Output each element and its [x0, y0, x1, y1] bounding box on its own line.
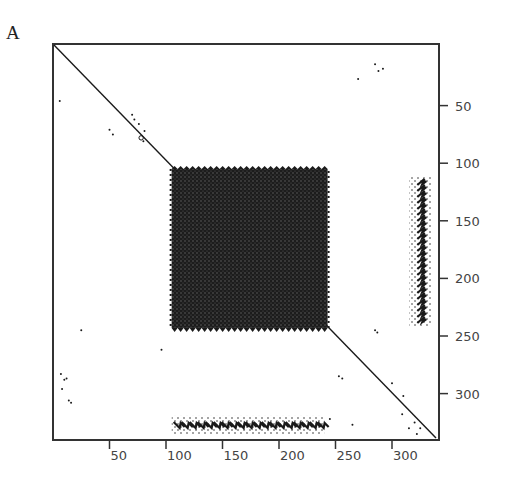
- data-point: [419, 427, 421, 429]
- data-point: [70, 402, 72, 404]
- x-tick-label: 150: [224, 448, 249, 463]
- data-point: [374, 329, 376, 331]
- data-point: [66, 378, 68, 380]
- data-point: [142, 140, 144, 142]
- diagonal-marker: [139, 136, 143, 140]
- y-tick-label: 250: [455, 329, 480, 344]
- data-point: [61, 388, 63, 390]
- data-point: [68, 400, 70, 402]
- data-point: [338, 375, 340, 377]
- data-point: [109, 129, 111, 131]
- data-point: [408, 427, 410, 429]
- dense-block: [170, 166, 330, 332]
- y-tick-label: 200: [455, 271, 480, 286]
- data-point: [402, 395, 404, 397]
- data-point: [144, 130, 146, 132]
- side-band-bottom: [172, 416, 329, 435]
- dense-block-fill: [172, 169, 328, 328]
- y-tick-label: 100: [455, 156, 480, 171]
- dot-plot: 50100150200250300 50100150200250300: [0, 0, 517, 490]
- y-axis-right: 50100150200250300: [439, 99, 480, 402]
- y-tick-label: 50: [455, 99, 472, 114]
- data-point: [131, 114, 133, 116]
- data-point: [414, 421, 416, 423]
- data-point: [60, 373, 62, 375]
- data-point: [401, 413, 403, 415]
- data-point: [376, 332, 378, 334]
- data-point: [59, 100, 61, 102]
- data-point: [374, 63, 376, 65]
- data-point: [112, 133, 114, 135]
- data-point: [341, 378, 343, 380]
- data-point: [160, 349, 162, 351]
- x-tick-label: 250: [337, 448, 362, 463]
- x-tick-label: 100: [167, 448, 192, 463]
- data-point: [63, 379, 65, 381]
- x-tick-label: 300: [393, 448, 418, 463]
- x-tick-label: 50: [111, 448, 128, 463]
- data-point: [377, 70, 379, 72]
- data-point: [416, 433, 418, 435]
- data-point: [80, 329, 82, 331]
- x-axis: 50100150200250300: [110, 440, 418, 463]
- data-point: [382, 68, 384, 70]
- y-tick-label: 300: [455, 387, 480, 402]
- data-point: [357, 78, 359, 80]
- y-tick-label: 150: [455, 214, 480, 229]
- side-band-right: [409, 177, 431, 327]
- data-point: [329, 418, 331, 420]
- data-point: [133, 118, 135, 120]
- data-point: [391, 382, 393, 384]
- data-point: [351, 424, 353, 426]
- data-point: [138, 123, 140, 125]
- x-tick-label: 200: [280, 448, 305, 463]
